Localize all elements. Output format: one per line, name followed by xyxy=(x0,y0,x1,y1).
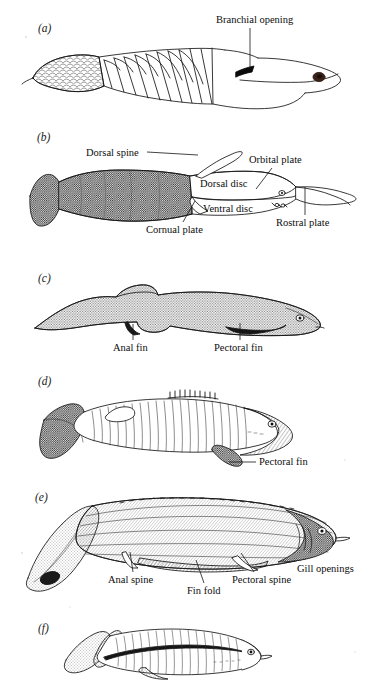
figure-root: (a) (b) (c) (d) (e) (f) Branchial openin… xyxy=(0,0,369,691)
panel-letter-b: (b) xyxy=(37,131,50,143)
label-anal-spine: Anal spine xyxy=(108,574,153,586)
panel-letter-e: (e) xyxy=(35,491,48,503)
label-anal-fin: Anal fin xyxy=(113,342,148,354)
label-pectoral-spine: Pectoral spine xyxy=(232,574,291,586)
panel-letter-a: (a) xyxy=(38,22,51,34)
panel-letter-f: (f) xyxy=(38,622,49,634)
label-dorsal-spine: Dorsal spine xyxy=(86,147,139,159)
label-dorsal-disc: Dorsal disc xyxy=(200,178,248,190)
panel-letter-d: (d) xyxy=(38,375,51,387)
label-orbital-plate: Orbital plate xyxy=(249,154,302,166)
label-pectoral-fin-c: Pectoral fin xyxy=(214,342,263,354)
label-rostral-plate: Rostral plate xyxy=(276,217,329,229)
figure-artwork xyxy=(0,0,369,691)
label-cornual-plate: Cornual plate xyxy=(146,224,203,236)
label-ventral-disc: Ventral disc xyxy=(203,203,253,215)
label-pectoral-fin-d: Pectoral fin xyxy=(259,456,308,468)
panel-letter-c: (c) xyxy=(38,272,51,284)
label-branchial-opening: Branchial opening xyxy=(216,14,293,26)
label-gill-openings: Gill openings xyxy=(297,563,354,575)
label-fin-fold: Fin fold xyxy=(187,585,221,597)
